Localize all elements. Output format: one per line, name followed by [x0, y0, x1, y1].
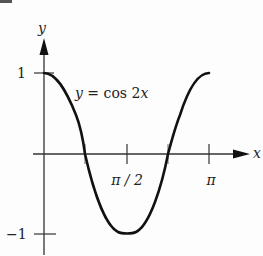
- graph-figure: y x 1 −1 π / 2 π y = cos 2x: [0, 0, 263, 256]
- y-tick-label-1: 1: [17, 65, 26, 81]
- x-tick-label-pi: π: [205, 172, 216, 188]
- x-axis-label: x: [253, 145, 261, 161]
- y-axis-arrow-icon: [40, 38, 49, 55]
- function-label: y = cos 2x: [74, 85, 148, 101]
- plot-canvas: y x 1 −1 π / 2 π y = cos 2x: [0, 0, 263, 256]
- x-axis-arrow-icon: [233, 150, 250, 159]
- y-tick-label-neg1: −1: [6, 226, 27, 242]
- y-axis-label: y: [37, 20, 47, 36]
- x-tick-label-pi-over-2: π / 2: [110, 172, 143, 188]
- cropped-text-remnant: [0, 0, 12, 3]
